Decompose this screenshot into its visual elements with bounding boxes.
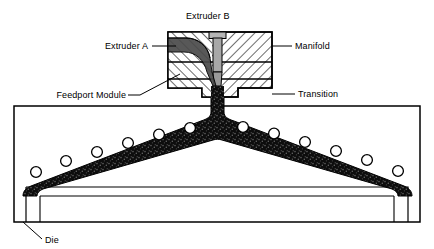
bolt-hole [331,146,342,157]
bolt-hole [123,138,134,149]
bolt-hole [92,147,103,158]
bolt-hole [238,122,249,133]
feedblock-assembly [168,32,272,100]
bolt-hole [362,155,373,166]
diagram-svg [0,0,434,249]
bolt-hole [300,137,311,148]
diagram-canvas: Extruder B Extruder A Feedport Module Ma… [0,0,434,249]
bolt-hole [185,123,196,134]
leader-die [23,222,42,239]
bolt-hole [61,156,72,167]
bolt-hole [269,128,280,139]
label-transition: Transition [298,89,338,99]
title-extruder-b: Extruder B [186,11,230,21]
label-extruder-a: Extruder A [54,41,148,51]
label-die: Die [45,235,59,245]
bolt-hole [31,167,42,178]
bolt-hole [393,166,404,177]
melt-exit [211,86,224,100]
label-feedport-module: Feedport Module [18,90,126,100]
label-manifold: Manifold [295,41,330,51]
bolt-hole [154,129,165,140]
